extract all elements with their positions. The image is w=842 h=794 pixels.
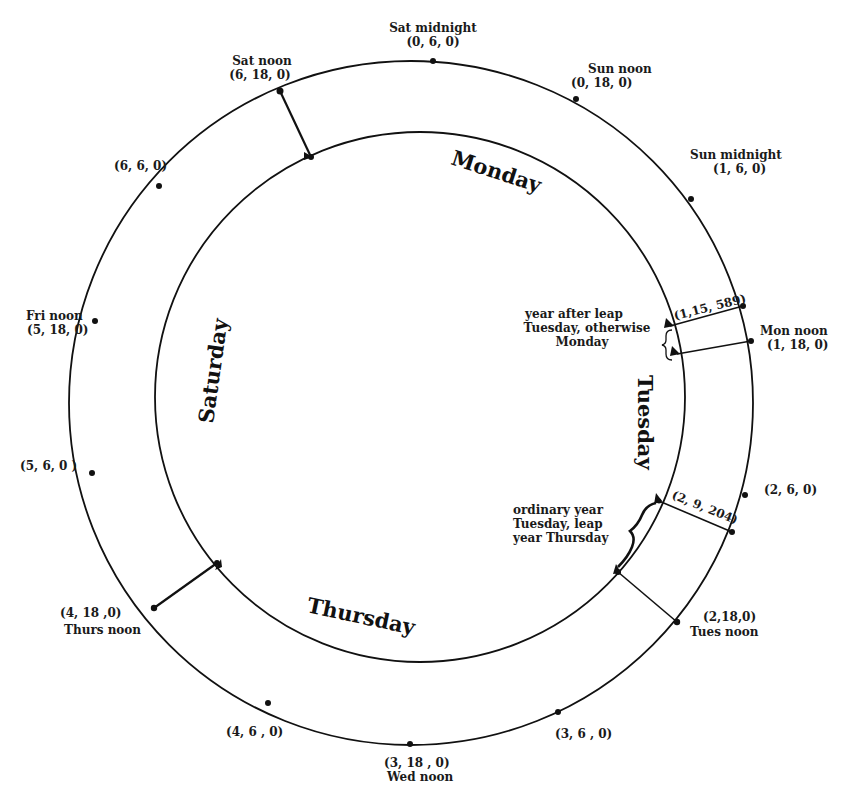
tues-noon-connector [613, 564, 677, 622]
label-2-6-0-coord: (2, 6, 0) [764, 483, 817, 497]
marker-inner-thurs [214, 560, 220, 566]
label-sun-noon-name: Sun noon [588, 62, 652, 76]
molad-day-diagram: Sat midnight (0, 6, 0) Sun noon (0, 18, … [0, 0, 842, 794]
marker-3-6-0 [555, 709, 561, 715]
marker-fri-noon [92, 318, 98, 324]
thurs-noon-connector [154, 559, 222, 608]
label-4-6-0-coord: (4, 6 , 0) [226, 725, 283, 739]
label-sat-midnight-coord: (0, 6, 0) [406, 35, 459, 49]
marker-2-6-0 [742, 492, 748, 498]
marker-sat-midnight [430, 58, 436, 64]
label-tues-noon-coord: (2,18,0) [703, 610, 756, 624]
label-fri-noon-coord: (5, 18, 0) [27, 323, 88, 337]
annotation-line: Tuesday, otherwise [524, 321, 651, 335]
day-label-monday: Monday [448, 145, 545, 198]
label-thurs-noon-name: Thurs noon [64, 623, 141, 637]
annotation-line: Monday [555, 335, 609, 349]
marker-tues-noon [674, 619, 680, 625]
label-fri-noon-name: Fri noon [26, 309, 83, 323]
day-label-thursday: Thursday [305, 592, 418, 639]
marker-sun-midnight [688, 196, 694, 202]
label-sun-midnight-coord: (1, 6, 0) [713, 162, 766, 176]
label-tues-noon-name: Tues noon [690, 625, 759, 639]
marker-2-9-204 [729, 529, 735, 535]
marker-inner-2-9-204 [657, 499, 662, 504]
marker-6-6-0 [156, 183, 162, 189]
sat-noon-connector [280, 91, 313, 160]
brace-ordinary-year [618, 503, 656, 567]
marker-thurs-noon [151, 605, 157, 611]
marker-inner-tues [615, 569, 621, 575]
annotation-line: year Thursday [512, 531, 610, 545]
label-wed-noon-name: Wed noon [386, 770, 453, 784]
label-sat-noon-name: Sat noon [232, 54, 292, 68]
label-thurs-noon-coord: (4, 18 ,0) [60, 606, 121, 620]
marker-mon-noon [748, 338, 754, 344]
label-5-6-0-coord: (5, 6, 0 ) [20, 459, 77, 473]
label-sat-midnight-name: Sat midnight [389, 21, 477, 35]
marker-wed-noon [407, 741, 413, 747]
label-sun-noon-coord: (0, 18, 0) [571, 76, 632, 90]
label-sat-noon-coord: (6, 18, 0) [229, 68, 290, 82]
annotation-line: Tuesday, leap [513, 517, 603, 531]
day-label-tuesday: Tuesday [633, 375, 658, 470]
label-mon-noon-coord: (1, 18, 0) [767, 338, 828, 352]
annotation-line: year after leap [524, 307, 623, 321]
annotation-ordinary-year: ordinary year Tuesday, leap year Thursda… [512, 503, 610, 545]
annotation-year-after-leap: year after leap Tuesday, otherwise Monda… [524, 307, 651, 349]
marker-4-6-0 [265, 700, 271, 706]
label-wed-noon-coord: (3, 18 , 0) [384, 756, 450, 770]
marker-sat-noon [277, 88, 284, 95]
mon-noon-connector [670, 341, 751, 356]
annotation-line: ordinary year [513, 503, 604, 517]
marker-5-6-0 [89, 470, 95, 476]
label-3-6-0-coord: (3, 6 , 0) [555, 727, 612, 741]
marker-sun-noon [573, 96, 579, 102]
day-label-saturday: Saturday [193, 316, 233, 425]
label-1-15-589-coord: (1,15, 589) [672, 291, 747, 322]
marker-inner-sat [308, 154, 314, 160]
label-sun-midnight-name: Sun midnight [690, 148, 782, 162]
inner-ring [155, 132, 685, 662]
label-mon-noon-name: Mon noon [760, 324, 828, 338]
label-6-6-0-coord: (6, 6, 0) [114, 159, 167, 173]
